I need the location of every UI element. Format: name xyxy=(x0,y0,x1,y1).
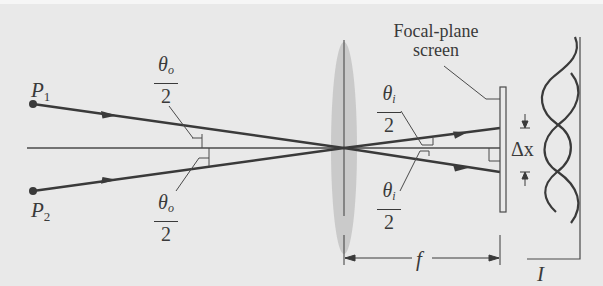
intensity-axis xyxy=(527,37,580,259)
screen-right-angle xyxy=(489,148,500,161)
intensity-curve-1 xyxy=(545,73,579,223)
leader-theta-o-upper xyxy=(169,106,193,138)
focal-plane-screen xyxy=(500,87,506,212)
angle-markers-image xyxy=(400,111,500,191)
label-theta-o-lower: θo 2 xyxy=(154,192,178,244)
ray-p1-image xyxy=(344,148,500,172)
label-theta-i-lower: θi 2 xyxy=(377,180,401,232)
ray-p1-object xyxy=(33,104,344,148)
screen-label-line2: screen xyxy=(376,41,496,60)
label-p2: P2 xyxy=(31,198,50,225)
label-focal-length: f xyxy=(416,247,422,272)
screen-label-line1: Focal-plane xyxy=(376,22,496,41)
screen-leader-line xyxy=(444,66,500,99)
label-focal-plane-screen: Focal-plane screen xyxy=(376,22,496,60)
arrow-icon xyxy=(101,177,117,184)
label-theta-o-upper: θo 2 xyxy=(154,54,178,106)
leader-theta-o-lower xyxy=(176,158,199,191)
label-delta-x: Δx xyxy=(511,138,534,161)
ray-p2-object xyxy=(33,148,344,191)
arrow-icon xyxy=(453,132,468,139)
label-p1: P1 xyxy=(31,78,50,105)
label-intensity: I xyxy=(537,262,544,286)
intensity-plot xyxy=(527,37,580,259)
label-theta-i-upper: θi 2 xyxy=(377,83,401,135)
focal-length-dimension xyxy=(344,235,500,265)
point-source-p2 xyxy=(29,187,37,195)
